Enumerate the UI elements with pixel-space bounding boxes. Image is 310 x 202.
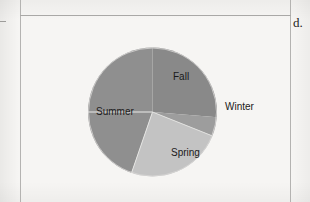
pie-slice-fall [153, 47, 218, 118]
pie-label-summer: Summer [96, 106, 134, 117]
table-border-right [290, 0, 291, 202]
pie-label-winter: Winter [225, 101, 254, 112]
pie-label-spring: Spring [171, 147, 200, 158]
pie-chart-figure: Fall Winter Spring Summer [21, 16, 290, 202]
pie-label-fall: Fall [173, 71, 189, 82]
margin-scan-mark [0, 21, 6, 22]
scanned-page: d. [0, 0, 310, 202]
item-letter-label: d. [293, 16, 303, 30]
